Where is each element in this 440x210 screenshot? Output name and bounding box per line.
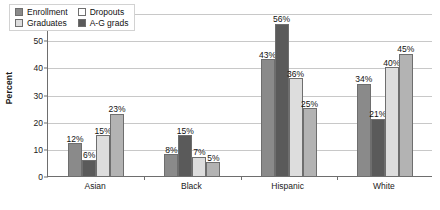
y-tick-label: 20 <box>34 118 43 128</box>
category-separator <box>241 176 242 180</box>
bar-slot: 21% <box>371 14 385 176</box>
legend-swatch-icon <box>15 19 23 27</box>
bar[interactable]: 15% <box>178 135 192 176</box>
legend-item[interactable]: Dropouts <box>78 8 129 17</box>
bar-value-label: 36% <box>287 70 304 79</box>
category-separator <box>144 176 145 180</box>
bar-value-label: 15% <box>177 127 194 136</box>
legend-swatch-icon <box>78 19 86 27</box>
bar-slot: 36% <box>289 14 303 176</box>
bars-layer: 12%6%15%23%8%15%7%5%43%56%36%25%34%21%40… <box>48 14 432 176</box>
bar-slot: 23% <box>110 14 124 176</box>
chart-legend: EnrollmentDropoutsGraduatesA-G grads <box>9 4 135 31</box>
bar-value-label: 7% <box>193 148 205 157</box>
bar[interactable]: 40% <box>385 67 399 176</box>
legend-item[interactable]: Enrollment <box>15 8 68 17</box>
y-tick-label: 10 <box>34 145 43 155</box>
bar-value-label: 15% <box>95 127 112 136</box>
bar-value-label: 6% <box>83 151 95 160</box>
legend-label: Graduates <box>27 19 67 28</box>
bar-slot: 12% <box>68 14 82 176</box>
y-tick-label: 0 <box>38 172 43 182</box>
bar-slot: 43% <box>261 14 275 176</box>
bar-slot: 56% <box>275 14 289 176</box>
bar-value-label: 40% <box>383 59 400 68</box>
bar-value-label: 8% <box>165 146 177 155</box>
bar-slot: 7% <box>192 14 206 176</box>
bar-group: 8%15%7%5% <box>144 14 240 176</box>
plot-area: 0102030405060 12%6%15%23%8%15%7%5%43%56%… <box>47 14 432 177</box>
bar-slot: 25% <box>303 14 317 176</box>
bar-slot: 15% <box>96 14 110 176</box>
legend-item[interactable]: Graduates <box>15 19 68 28</box>
bar[interactable]: 45% <box>399 54 413 176</box>
bar[interactable]: 6% <box>82 160 96 176</box>
bar[interactable]: 7% <box>192 157 206 176</box>
bar[interactable]: 43% <box>261 59 275 176</box>
bar-value-label: 5% <box>207 154 219 163</box>
legend-label: A-G grads <box>90 19 129 28</box>
bar-value-label: 25% <box>301 100 318 109</box>
bar-value-label: 56% <box>273 15 290 24</box>
bar-slot: 45% <box>399 14 413 176</box>
bar[interactable]: 5% <box>206 162 220 176</box>
x-axis-label: White <box>373 181 395 191</box>
bar[interactable]: 21% <box>371 119 385 176</box>
legend-swatch-icon <box>15 8 23 16</box>
y-tick-label: 50 <box>34 36 43 46</box>
bar-value-label: 12% <box>67 135 84 144</box>
bar-group: 34%21%40%45% <box>337 14 433 176</box>
bar[interactable]: 34% <box>357 84 371 176</box>
bar-slot: 6% <box>82 14 96 176</box>
category-separator <box>337 176 338 180</box>
bar[interactable]: 25% <box>303 108 317 176</box>
bar-slot: 5% <box>206 14 220 176</box>
bar[interactable]: 8% <box>164 154 178 176</box>
bar-slot: 15% <box>178 14 192 176</box>
bar[interactable]: 23% <box>110 114 124 176</box>
bar-slot: 8% <box>164 14 178 176</box>
bar-slot: 34% <box>357 14 371 176</box>
legend-label: Enrollment <box>27 8 68 17</box>
bar-group: 43%56%36%25% <box>241 14 337 176</box>
legend-item[interactable]: A-G grads <box>78 19 129 28</box>
bar-value-label: 34% <box>355 75 372 84</box>
y-tick-label: 40 <box>34 63 43 73</box>
legend-label: Dropouts <box>90 8 125 17</box>
bar[interactable]: 12% <box>68 143 82 176</box>
x-axis-label: Hispanic <box>271 181 304 191</box>
bar[interactable]: 15% <box>96 135 110 176</box>
legend-swatch-icon <box>78 8 86 16</box>
bar-value-label: 45% <box>397 45 414 54</box>
bar-chart: Percent 0102030405060 12%6%15%23%8%15%7%… <box>0 0 440 210</box>
bar-group: 12%6%15%23% <box>48 14 144 176</box>
bar-value-label: 21% <box>369 110 386 119</box>
x-axis-label: Black <box>181 181 202 191</box>
y-tick-mark <box>44 177 48 178</box>
bar-slot: 40% <box>385 14 399 176</box>
x-axis-label: Asian <box>84 181 105 191</box>
x-axis-labels: AsianBlackHispanicWhite <box>47 181 432 197</box>
y-axis-title-text: Percent <box>4 71 14 104</box>
bar-value-label: 23% <box>109 105 126 114</box>
bar[interactable]: 56% <box>275 24 289 176</box>
bar-value-label: 43% <box>259 51 276 60</box>
y-tick-label: 30 <box>34 91 43 101</box>
bar[interactable]: 36% <box>289 78 303 176</box>
